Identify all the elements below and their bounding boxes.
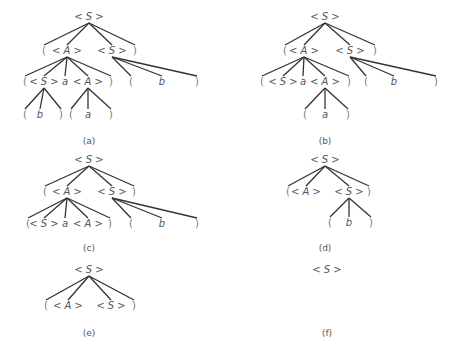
tree-edge <box>285 23 325 45</box>
parse-tree-c: < S >(< A >< S >)(< S >a< A >)(b)(c) <box>26 154 199 253</box>
nonterminal-node: < S > <box>97 186 126 197</box>
parse-tree-d: < S >(< A >< S >)(b)(d) <box>286 154 373 253</box>
terminal-node: ( <box>129 76 133 87</box>
parse-tree-figure: < S >(< A >< S >)(< S >a< A >)(b)(b)(a)(… <box>0 0 456 351</box>
terminal-node: ) <box>195 218 199 229</box>
tree-edge <box>283 57 304 76</box>
tree-edge <box>68 276 89 300</box>
terminal-node: ( <box>23 76 27 87</box>
nonterminal-node: < A > <box>73 218 103 229</box>
nonterminal-node: < A > <box>289 45 319 56</box>
terminal-node: ( <box>43 186 47 197</box>
tree-edge <box>46 276 89 300</box>
nonterminal-node: < S > <box>268 76 297 87</box>
terminal-node: ( <box>44 300 48 311</box>
tree-edge <box>304 23 325 45</box>
terminal-node: ) <box>132 186 136 197</box>
parse-tree-a: < S >(< A >< S >)(< S >a< A >)(b)(b)(a)(… <box>23 11 199 146</box>
nonterminal-node: < S > <box>310 11 339 22</box>
tree-edge <box>89 23 112 45</box>
tree-edge <box>89 276 111 300</box>
tree-edge <box>89 23 135 45</box>
tree-edge <box>67 57 88 76</box>
tree-edge <box>303 57 304 76</box>
terminal-node: ( <box>42 45 46 56</box>
tree-edge <box>67 198 88 218</box>
tree-edge <box>325 23 350 45</box>
terminal-node: ( <box>328 217 332 228</box>
tree-edge <box>65 198 67 218</box>
terminal-node: ) <box>373 45 377 56</box>
tree-edge <box>325 88 348 109</box>
tree-edge <box>325 166 369 186</box>
nonterminal-node: < S > <box>74 11 103 22</box>
terminal-node: ( <box>286 186 290 197</box>
terminal-node: b <box>159 218 165 229</box>
tree-edge <box>288 166 325 186</box>
terminal-node: ) <box>109 109 113 120</box>
nonterminal-node: < A > <box>53 300 83 311</box>
terminal-node: a <box>322 109 328 120</box>
tree-edge <box>89 276 134 300</box>
terminal-node: a <box>62 76 68 87</box>
terminal-node: ( <box>23 109 27 120</box>
nonterminal-node: < A > <box>73 76 103 87</box>
nonterminal-node: < S > <box>335 45 364 56</box>
tree-edge <box>44 88 61 109</box>
tree-edge <box>67 166 89 186</box>
terminal-node: b <box>159 76 165 87</box>
terminal-node: ) <box>132 300 136 311</box>
terminal-node: b <box>346 217 352 228</box>
tree-edge <box>25 57 67 76</box>
tree-edge <box>112 57 131 76</box>
terminal-node: ) <box>109 76 113 87</box>
nonterminal-node: < A > <box>291 186 321 197</box>
terminal-node: ( <box>364 76 368 87</box>
tree-caption: (f) <box>322 328 332 338</box>
tree-edge <box>350 57 394 76</box>
terminal-node: ) <box>195 76 199 87</box>
terminal-node: ) <box>108 218 112 229</box>
terminal-node: ) <box>367 186 371 197</box>
tree-edge <box>88 88 111 109</box>
tree-edge <box>325 166 349 186</box>
tree-edge <box>44 23 89 45</box>
tree-edge <box>67 57 111 76</box>
nonterminal-node: < S > <box>29 218 58 229</box>
terminal-node: ( <box>69 109 73 120</box>
terminal-node: ( <box>260 76 264 87</box>
nonterminal-node: < A > <box>52 186 82 197</box>
nonterminal-node: < A > <box>52 45 82 56</box>
tree-edge <box>71 88 88 109</box>
tree-caption: (d) <box>319 243 332 253</box>
tree-edge <box>67 23 89 45</box>
nonterminal-node: < S > <box>74 154 103 165</box>
nonterminal-node: < S > <box>74 264 103 275</box>
nonterminal-node: < S > <box>312 264 341 275</box>
tree-caption: (e) <box>83 328 96 338</box>
terminal-node: ( <box>129 218 133 229</box>
tree-edge <box>304 57 349 76</box>
tree-edge <box>305 88 325 109</box>
tree-edge <box>262 57 304 76</box>
tree-edge <box>89 166 112 186</box>
terminal-node: ) <box>346 109 350 120</box>
parse-tree-e: < S >(< A >< S >)(e) <box>44 264 136 338</box>
tree-edge <box>45 166 89 186</box>
parse-tree-b: < S >(< A >< S >)(< S >a< A >)(b)(a)(b) <box>260 11 438 146</box>
nonterminal-node: < S > <box>334 186 363 197</box>
terminal-node: ( <box>303 109 307 120</box>
parse-tree-f: < S >(f) <box>312 264 341 338</box>
terminal-node: a <box>300 76 306 87</box>
terminal-node: b <box>391 76 397 87</box>
tree-edge <box>304 57 325 76</box>
terminal-node: a <box>85 109 91 120</box>
terminal-node: ) <box>133 45 137 56</box>
tree-edge <box>89 166 134 186</box>
tree-caption: (a) <box>83 136 96 146</box>
tree-edge <box>65 57 67 76</box>
terminal-node: b <box>37 109 43 120</box>
tree-edge <box>306 166 325 186</box>
terminal-node: ( <box>283 45 287 56</box>
tree-edge <box>67 198 110 218</box>
